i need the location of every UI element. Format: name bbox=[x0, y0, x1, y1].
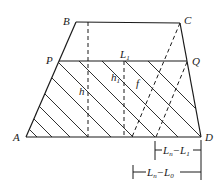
vertex-label-b: B bbox=[63, 15, 70, 27]
edge-cd bbox=[180, 23, 201, 137]
vertex-label-q: Q bbox=[192, 55, 200, 67]
edge-bc bbox=[76, 22, 180, 23]
vertex-label-c: C bbox=[184, 14, 192, 26]
vertex-label-a: A bbox=[12, 131, 20, 143]
label-f: f bbox=[136, 77, 141, 89]
trapezoid-diagram: B C P Q A D L1 h h1 f Ln−L1 Ln−L0 bbox=[0, 0, 223, 188]
slant-line-from-c bbox=[132, 23, 180, 137]
label-l1: L1 bbox=[119, 48, 130, 62]
dim1-label: Ln−L1 bbox=[162, 144, 190, 158]
dim2-label: Ln−L0 bbox=[146, 166, 174, 180]
vertex-label-d: D bbox=[204, 131, 213, 143]
label-h1: h1 bbox=[111, 71, 120, 85]
edge-ab bbox=[26, 22, 76, 137]
label-h: h bbox=[79, 85, 85, 97]
vertex-label-p: P bbox=[45, 54, 53, 66]
